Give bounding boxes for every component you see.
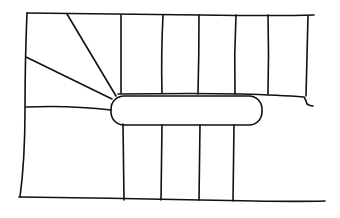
lower-tread-4 (233, 125, 234, 201)
upper-tread-4 (235, 15, 236, 94)
winder-line-3 (26, 106, 111, 110)
upper-tread-6 (306, 16, 308, 96)
left-wall-line (20, 13, 27, 197)
upper-tread-5 (268, 15, 269, 94)
winder-line-2 (26, 57, 112, 99)
landing-newel (111, 96, 262, 125)
bottom-floor-line (19, 197, 325, 201)
lower-tread-1 (123, 124, 124, 200)
winder-line-1 (67, 14, 116, 96)
lower-tread-2 (161, 125, 162, 200)
lower-tread-3 (199, 125, 200, 200)
staircase-drawing (0, 0, 340, 218)
upper-tread-3 (198, 15, 199, 94)
upper-tread-2 (162, 15, 163, 93)
top-wall-line (27, 13, 314, 16)
staircase-diagram (0, 0, 340, 218)
